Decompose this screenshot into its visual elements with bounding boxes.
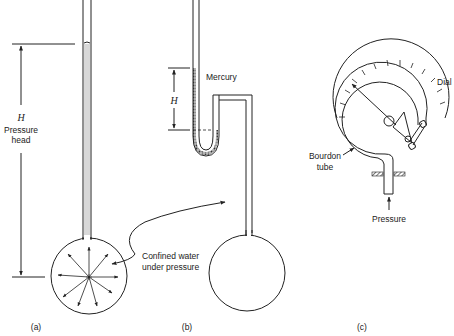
pressure-head-label-1: Pressure <box>4 125 38 135</box>
mercury-label: Mercury <box>206 72 237 82</box>
dial-ticks <box>339 60 445 117</box>
bourdon-label-2: tube <box>317 162 334 172</box>
dial-label: Dial <box>437 77 452 87</box>
water-vessel-b <box>209 235 285 311</box>
pressure-label: Pressure <box>372 214 406 224</box>
caption-a: (a) <box>31 322 42 332</box>
meniscus <box>84 42 90 43</box>
water-column <box>84 44 90 240</box>
pressure-arrows-icon <box>58 247 118 306</box>
pressure-head-label-2: head <box>12 135 31 145</box>
panel-b-manometer: H Mercury (b) <box>168 0 285 332</box>
bourdon-tube-inner <box>342 82 418 172</box>
confined-water-callout: Confined water under pressure <box>112 202 225 272</box>
height-symbol-a: H <box>16 112 25 123</box>
caption-b: (b) <box>182 322 193 332</box>
pointer-needle <box>352 84 396 125</box>
panel-c-bourdon-gauge: Dial Bourdon tube Pressure (c) <box>309 39 452 332</box>
bourdon-label-1: Bourdon <box>309 151 341 161</box>
callout-line-1: Confined water <box>142 251 199 261</box>
pressure-measurement-diagram: H Pressure head (a) H Mercury (b) <box>0 0 454 336</box>
panel-a-piezometer: H Pressure head (a) <box>4 0 127 332</box>
dial-arc <box>333 39 449 118</box>
pivot <box>384 116 394 126</box>
bourdon-tube-outer <box>335 62 427 172</box>
caption-c: (c) <box>357 322 367 332</box>
height-dimension-a <box>12 44 75 277</box>
height-symbol-b: H <box>169 95 178 106</box>
callout-line-2: under pressure <box>142 262 199 272</box>
